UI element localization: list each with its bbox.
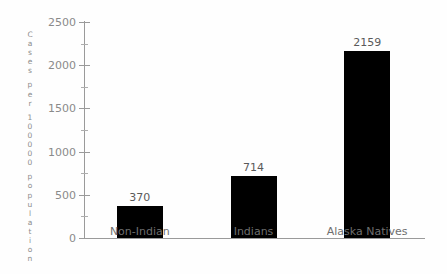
x-axis-label-alaska-natives: Alaska Natives <box>327 226 408 237</box>
y-axis-title-char: o <box>22 245 38 254</box>
y-axis-title-char: e <box>22 90 38 99</box>
y-axis-title-char: 1 <box>22 113 38 122</box>
y-axis-title-char: o <box>22 181 38 190</box>
y-axis-title-char: C <box>22 30 38 39</box>
y-minor-tick-mark <box>81 216 88 217</box>
y-axis-title-char: u <box>22 200 38 209</box>
y-axis-title-char: l <box>22 209 38 218</box>
y-minor-tick-mark <box>81 130 88 131</box>
x-axis-label-non-indian: Non-Indian <box>110 226 170 237</box>
y-axis-title-char: 0 <box>22 158 38 167</box>
y-tick-mark <box>79 108 90 109</box>
y-minor-tick-mark <box>81 87 88 88</box>
y-tick-label: 1500 <box>48 103 76 114</box>
y-axis-title-char: p <box>22 80 38 89</box>
y-tick-label: 2500 <box>48 17 76 28</box>
y-minor-tick-mark <box>81 44 88 45</box>
y-axis-title: Casesper100000population <box>22 30 38 263</box>
y-axis-title-char: r <box>22 99 38 108</box>
y-tick-mark <box>79 22 90 23</box>
y-axis-title-char: 0 <box>22 149 38 158</box>
y-axis-title-char: s <box>22 48 38 57</box>
bar-value-label: 714 <box>243 162 264 173</box>
y-axis-title-char: n <box>22 254 38 263</box>
y-axis-title-char: a <box>22 218 38 227</box>
y-axis-title-char: p <box>22 172 38 181</box>
bar-value-label: 370 <box>129 192 150 203</box>
bar-alaska-natives[interactable] <box>344 51 390 238</box>
y-tick-mark <box>79 65 90 66</box>
y-tick-mark <box>79 195 90 196</box>
y-axis-title-char: 0 <box>22 122 38 131</box>
y-tick-mark <box>79 238 90 239</box>
y-axis-title-char: i <box>22 236 38 245</box>
y-axis-title-char: t <box>22 227 38 236</box>
y-tick-label: 2000 <box>48 60 76 71</box>
y-axis-title-char: s <box>22 66 38 75</box>
bar-chart: Casesper100000population 050010001500200… <box>0 0 447 274</box>
y-axis-title-char: 0 <box>22 140 38 149</box>
y-axis-title-char: a <box>22 39 38 48</box>
x-axis-label-indians: Indians <box>234 226 274 237</box>
y-tick-mark <box>79 152 90 153</box>
y-tick-label: 1000 <box>48 146 76 157</box>
y-axis-title-char: 0 <box>22 131 38 140</box>
bar-value-label: 2159 <box>353 37 381 48</box>
y-axis-title-char: p <box>22 191 38 200</box>
plot-area: 05001000150020002500 3707142159 <box>84 22 425 238</box>
y-minor-tick-mark <box>81 173 88 174</box>
x-axis-line <box>83 238 425 239</box>
y-tick-label: 0 <box>69 233 76 244</box>
y-axis-title-char: e <box>22 57 38 66</box>
y-tick-label: 500 <box>55 189 76 200</box>
